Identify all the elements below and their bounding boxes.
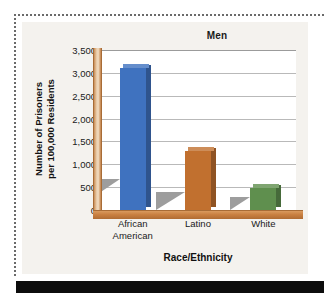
bar-shadow — [230, 197, 250, 210]
y-axis-tick-label: 1,500 — [52, 136, 96, 147]
plot-area-frame — [100, 50, 296, 210]
screenshot-page: Men Number of Prisoners per 100,000 Resi… — [0, 0, 324, 293]
plot-area — [100, 50, 296, 210]
bar-side-face — [211, 148, 216, 207]
bar-front-face — [250, 188, 276, 210]
x-axis-category-label: White — [227, 218, 299, 230]
chart-figure: Men Number of Prisoners per 100,000 Resi… — [22, 22, 308, 274]
y-axis-tick-label: 1,000 — [52, 159, 96, 170]
bar-0[interactable] — [120, 50, 146, 210]
y-axis-tick-label: 2,000 — [52, 113, 96, 124]
bar-side-face — [276, 185, 281, 207]
bar-shadow — [156, 192, 185, 210]
bar-front-face — [120, 68, 146, 210]
y-axis-tick-label: 500 — [52, 182, 96, 193]
x-axis-title: Race/Ethnicity — [100, 252, 296, 263]
y-axis-tick-label: 2,500 — [52, 90, 96, 101]
y-axis-tick-label: 3,500 — [52, 45, 96, 56]
page-bottom-band — [16, 281, 324, 293]
bar-side-face — [146, 65, 151, 207]
scan-border-left — [14, 14, 16, 276]
x-axis-category-label: AfricanAmerican — [97, 218, 169, 241]
y-axis-tick-label: 3,000 — [52, 67, 96, 78]
x-axis-category-label: Latino — [162, 218, 234, 230]
bar-shadow — [100, 179, 120, 210]
chart-title: Men — [122, 30, 312, 41]
bar-front-face — [185, 151, 211, 210]
y-axis-title-line-1: Number of Prisoners — [33, 79, 45, 179]
y-axis-tick-label: 0 — [52, 205, 96, 216]
x-axis-category-labels: AfricanAmericanLatinoWhite — [100, 218, 305, 252]
y-axis-line — [93, 48, 102, 218]
bar-1[interactable] — [185, 50, 211, 210]
scan-border-top — [14, 14, 324, 16]
y-axis-tick-labels: 3,5003,0002,5002,0001,5001,0005000 — [52, 50, 96, 210]
bar-2[interactable] — [250, 50, 276, 210]
